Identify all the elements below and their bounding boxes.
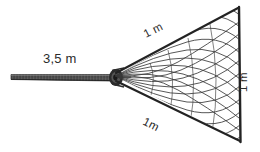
opening-height-label: 1 m xyxy=(237,72,249,92)
handle-length-label: 3,5 m xyxy=(43,51,77,66)
mesh-rows xyxy=(150,24,216,134)
top-edge-length-label: 1 m xyxy=(141,20,164,40)
net-mesh xyxy=(115,5,240,147)
figure-canvas: 3,5 m 1 m 1m 1 m xyxy=(0,0,260,152)
handle xyxy=(11,75,113,82)
net-top-edge xyxy=(116,8,238,73)
net-diagram: 3,5 m 1 m 1m 1 m xyxy=(0,0,260,152)
bottom-edge-length-label: 1m xyxy=(141,115,161,133)
